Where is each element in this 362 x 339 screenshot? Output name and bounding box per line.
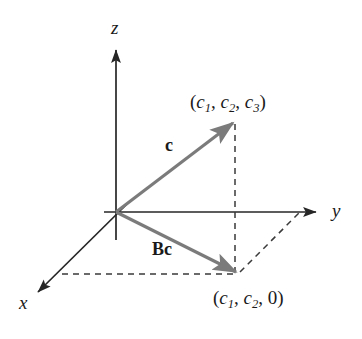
- vector-diagram-figure: z y x c Bc (c1, c2, c3) (c1, c2, 0): [0, 0, 362, 339]
- point-proj-zero: 0: [268, 287, 278, 308]
- axis-y-label: y: [332, 201, 340, 220]
- point-proj-close-paren: ): [277, 287, 283, 308]
- vector-c: [116, 123, 233, 212]
- diagram-canvas: [0, 0, 362, 339]
- vector-bc: [116, 212, 236, 272]
- point-proj-sub2: 2: [252, 297, 258, 311]
- point-3d-sub2: 2: [229, 101, 235, 115]
- point-proj-comma1: ,: [234, 287, 244, 308]
- dashed-diagonal-to-y-axis: [240, 213, 299, 272]
- vector-bc-arrow: [116, 212, 236, 272]
- point-proj-c2: c: [244, 287, 252, 308]
- axis-x-label: x: [19, 293, 27, 312]
- point-3d-comma1: ,: [211, 91, 221, 112]
- point-3d-c2: c: [221, 91, 229, 112]
- axis-z-label: z: [111, 18, 118, 37]
- point-proj-comma2: ,: [258, 287, 268, 308]
- point-3d-close-paren: ): [259, 91, 265, 112]
- vector-c-arrow: [116, 123, 233, 212]
- point-3d-label: (c1, c2, c3): [190, 92, 266, 111]
- point-3d-c3: c: [245, 91, 253, 112]
- point-proj-sub1: 1: [228, 297, 234, 311]
- point-projection-label: (c1, c2, 0): [213, 288, 284, 307]
- axis-x: [38, 203, 128, 292]
- point-proj-c1: c: [219, 287, 227, 308]
- point-3d-c1: c: [196, 91, 204, 112]
- vector-c-label: c: [165, 136, 173, 154]
- vector-bc-label: Bc: [152, 240, 172, 258]
- point-3d-sub1: 1: [205, 101, 211, 115]
- dashed-construction-lines: [62, 124, 299, 274]
- axis-x-line: [38, 203, 128, 292]
- point-3d-comma2: ,: [235, 91, 245, 112]
- point-3d-sub3: 3: [253, 101, 259, 115]
